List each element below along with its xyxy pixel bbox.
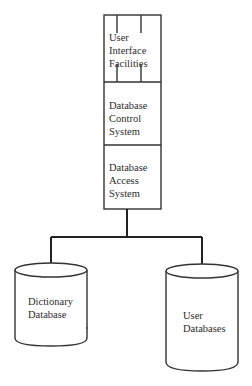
ui-facilities-line-1: User bbox=[109, 31, 148, 44]
user-databases-line-1: User bbox=[183, 309, 226, 322]
control-line-2: Control bbox=[109, 112, 147, 125]
dictionary-line-1: Dictionary bbox=[28, 295, 73, 308]
access-line-2: Access bbox=[109, 174, 147, 187]
control-line-3: System bbox=[109, 125, 147, 138]
control-line-1: Database bbox=[109, 99, 147, 112]
dictionary-database-top bbox=[15, 263, 87, 277]
database-control-system-label: Database Control System bbox=[109, 99, 147, 138]
user-databases-label: User Databases bbox=[183, 309, 226, 335]
user-databases-line-2: Databases bbox=[183, 322, 226, 335]
database-access-system-label: Database Access System bbox=[109, 161, 147, 200]
dictionary-database-label: Dictionary Database bbox=[28, 295, 73, 321]
access-line-1: Database bbox=[109, 161, 147, 174]
ui-facilities-line-3: Facilities bbox=[109, 57, 148, 70]
ui-facilities-line-2: Interface bbox=[109, 44, 148, 57]
user-databases-top bbox=[166, 264, 238, 278]
ui-facilities-label: User Interface Facilities bbox=[109, 31, 148, 70]
dictionary-line-2: Database bbox=[28, 308, 73, 321]
access-line-3: System bbox=[109, 187, 147, 200]
